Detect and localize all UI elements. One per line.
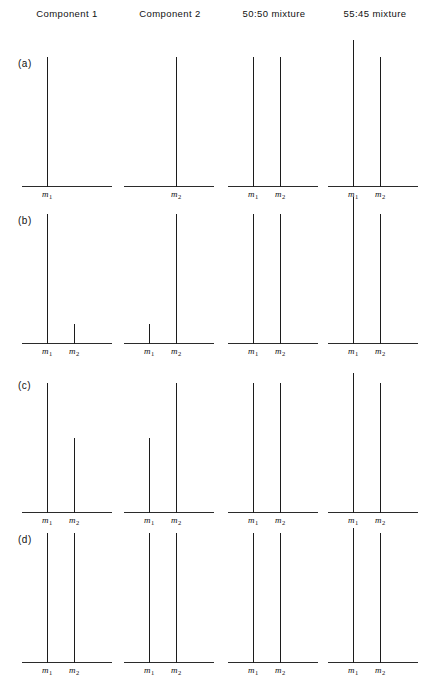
tick-label-m1: m1 — [348, 515, 358, 525]
tick-base: m — [42, 515, 49, 525]
tick-base: m — [144, 665, 151, 675]
panel-baseline — [124, 186, 214, 187]
peak-m1 — [353, 197, 354, 344]
peak-m2 — [280, 533, 281, 663]
panel-a-component-1 — [22, 56, 112, 187]
tick-base: m — [348, 515, 355, 525]
panel-c-component-1 — [22, 382, 112, 513]
tick-sub: 1 — [150, 519, 154, 526]
panel-baseline — [328, 343, 418, 344]
peak-m1 — [353, 373, 354, 513]
panel-baseline — [228, 343, 318, 344]
tick-base: m — [275, 515, 282, 525]
tick-label-m2: m2 — [275, 189, 285, 199]
tick-base: m — [275, 346, 282, 356]
tick-label-m2: m2 — [275, 665, 285, 675]
tick-label-m1: m1 — [144, 665, 154, 675]
tick-sub: 1 — [354, 350, 358, 357]
tick-label-m2: m2 — [171, 346, 181, 356]
panel-d-55-45-mixture — [328, 527, 418, 663]
tick-label-m2: m2 — [375, 346, 385, 356]
peak-m2 — [280, 57, 281, 187]
tick-label-m1: m1 — [248, 665, 258, 675]
tick-base: m — [42, 665, 49, 675]
peak-m1 — [253, 57, 254, 187]
tick-sub: 2 — [75, 350, 79, 357]
tick-sub: 2 — [281, 669, 285, 676]
panel-baseline — [328, 186, 418, 187]
tick-label-m2: m2 — [69, 515, 79, 525]
tick-base: m — [171, 346, 178, 356]
tick-base: m — [348, 665, 355, 675]
tick-sub: 1 — [354, 669, 358, 676]
panel-c-55-45-mixture — [328, 372, 418, 513]
tick-label-m1: m1 — [42, 665, 52, 675]
peak-m2 — [380, 57, 381, 187]
tick-label-m2: m2 — [69, 346, 79, 356]
peak-m1 — [47, 383, 48, 513]
panel-b-component-1 — [22, 213, 112, 344]
peak-m2 — [176, 533, 177, 663]
tick-sub: 2 — [281, 350, 285, 357]
tick-sub: 2 — [381, 350, 385, 357]
peak-m2 — [176, 57, 177, 187]
panel-d-component-2 — [124, 532, 214, 663]
tick-label-m2: m2 — [275, 346, 285, 356]
panel-baseline — [228, 512, 318, 513]
tick-sub: 1 — [48, 193, 52, 200]
panel-baseline — [228, 186, 318, 187]
panel-baseline — [22, 186, 112, 187]
panel-baseline — [22, 662, 112, 663]
peak-m1 — [149, 324, 150, 344]
tick-sub: 1 — [254, 350, 258, 357]
panel-c-50-50-mixture — [228, 382, 318, 513]
tick-base: m — [248, 189, 255, 199]
peak-m1 — [47, 57, 48, 187]
peak-m2 — [380, 533, 381, 663]
tick-sub: 1 — [48, 669, 52, 676]
peak-m1 — [47, 214, 48, 344]
panel-baseline — [124, 343, 214, 344]
tick-label-m2: m2 — [171, 189, 181, 199]
tick-sub: 2 — [177, 350, 181, 357]
panel-d-component-1 — [22, 532, 112, 663]
tick-base: m — [275, 665, 282, 675]
peak-m2 — [74, 438, 75, 513]
peak-m2 — [280, 383, 281, 513]
tick-base: m — [348, 346, 355, 356]
peak-m2 — [176, 214, 177, 344]
tick-label-m2: m2 — [69, 665, 79, 675]
panel-baseline — [328, 512, 418, 513]
panel-c-component-2 — [124, 382, 214, 513]
peak-m1 — [353, 528, 354, 663]
mass-spectra-figure: Component 1 Component 2 50:50 mixture 55… — [0, 0, 421, 690]
panel-b-50-50-mixture — [228, 213, 318, 344]
tick-base: m — [248, 665, 255, 675]
tick-label-m1: m1 — [348, 665, 358, 675]
panel-a-55-45-mixture — [328, 39, 418, 187]
column-header-50-50-mixture: 50:50 mixture — [243, 8, 306, 19]
tick-label-m1: m1 — [42, 515, 52, 525]
tick-sub: 1 — [150, 350, 154, 357]
tick-sub: 2 — [177, 519, 181, 526]
tick-base: m — [171, 189, 178, 199]
tick-sub: 1 — [48, 519, 52, 526]
peak-m1 — [47, 533, 48, 663]
tick-base: m — [171, 665, 178, 675]
tick-base: m — [248, 346, 255, 356]
tick-label-m1: m1 — [348, 346, 358, 356]
column-header-component-2: Component 2 — [139, 8, 200, 19]
tick-base: m — [171, 515, 178, 525]
panel-baseline — [22, 512, 112, 513]
tick-sub: 1 — [354, 519, 358, 526]
column-header-component-1: Component 1 — [36, 8, 97, 19]
tick-base: m — [144, 515, 151, 525]
tick-label-m1: m1 — [144, 346, 154, 356]
peak-m1 — [353, 40, 354, 187]
tick-label-m2: m2 — [275, 515, 285, 525]
panel-baseline — [22, 343, 112, 344]
tick-base: m — [69, 665, 76, 675]
panel-baseline — [228, 662, 318, 663]
tick-base: m — [275, 189, 282, 199]
peak-m2 — [380, 383, 381, 513]
